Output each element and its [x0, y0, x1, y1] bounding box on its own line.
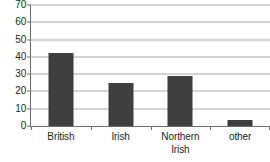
x-axis-tick-4: [269, 126, 270, 130]
y-axis-tick-label-60: 60: [0, 17, 26, 27]
bar-slot-irish: [91, 5, 151, 126]
bar-slot-british: [31, 5, 91, 126]
x-axis-tick-1: [91, 126, 92, 130]
x-axis-label-northern-irish-line-1: Northern: [151, 131, 211, 144]
x-axis-label-irish: Irish: [91, 131, 151, 144]
bar-slot-other: [210, 5, 270, 126]
y-axis-tick-label-50: 50: [0, 35, 26, 45]
y-axis-tick-label-10: 10: [0, 104, 26, 114]
y-axis-tick-label-20: 20: [0, 86, 26, 96]
y-axis-tick-labels: 70 60 50 40 30 20 10 0: [0, 0, 26, 126]
y-axis-tick-label-70: 70: [0, 0, 26, 10]
x-axis-tick-0: [31, 126, 32, 130]
bar-british[interactable]: [48, 53, 73, 126]
x-axis-label-northern-irish-line-2: Irish: [151, 144, 211, 157]
x-axis-label-irish-line-1: Irish: [91, 131, 151, 144]
x-axis-label-northern-irish: Northern Irish: [151, 131, 211, 156]
x-axis-tick-labels: British Irish Northern Irish other: [31, 131, 270, 162]
y-axis-tick-label-40: 40: [0, 52, 26, 62]
y-axis-tick-label-0: 0: [0, 121, 26, 131]
bar-northern-irish[interactable]: [168, 76, 193, 126]
bar-chart: 70 60 50 40 30 20 10 0: [0, 0, 270, 162]
bar-slot-northern-irish: [151, 5, 211, 126]
y-axis-tick-label-30: 30: [0, 69, 26, 79]
bar-irish[interactable]: [108, 83, 133, 126]
plot-area: [31, 5, 270, 126]
x-axis-label-other: other: [210, 131, 270, 144]
x-axis-label-british-line-1: British: [31, 131, 91, 144]
x-axis-label-other-line-1: other: [210, 131, 270, 144]
x-axis-tick-2: [151, 126, 152, 130]
x-axis-tick-3: [210, 126, 211, 130]
x-axis-label-british: British: [31, 131, 91, 144]
